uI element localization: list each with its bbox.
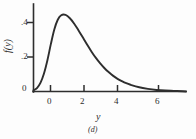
y-tick-label-0.4: .4 — [21, 18, 28, 27]
x-tick-label-4: 4 — [114, 97, 119, 106]
figure-caption: (d) — [88, 126, 97, 134]
y-tick-label-0.2: .2 — [21, 52, 28, 61]
x-tick-label-6: 6 — [155, 97, 160, 106]
x-tick-label-2: 2 — [80, 97, 85, 106]
y-tick-label-0: 0 — [22, 84, 27, 93]
x-tick-label-0: 0 — [47, 97, 52, 106]
x-axis-label: y — [96, 112, 100, 122]
y-axis-label-container: f(y) — [3, 30, 17, 62]
y-axis-label: f(y) — [3, 30, 13, 62]
